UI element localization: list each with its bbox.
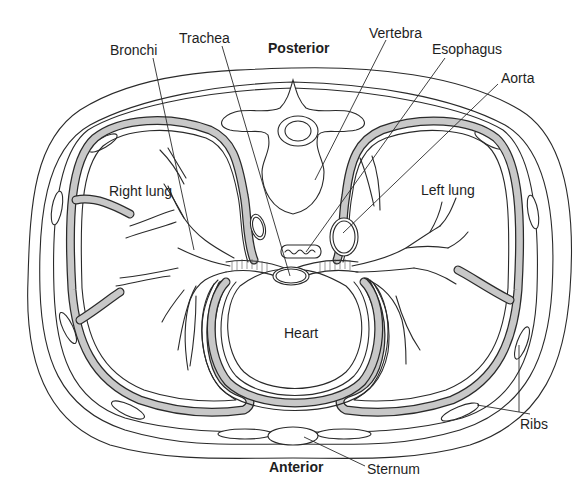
right-pleural-cavity-fill (70, 121, 254, 413)
rib (218, 429, 272, 439)
label-trachea: Trachea (179, 31, 230, 45)
label-ribs: Ribs (520, 417, 548, 431)
right-bronchial-tree (116, 148, 234, 370)
rib (317, 429, 371, 439)
label-posterior: Posterior (268, 41, 329, 55)
left-pleural-cavity-fill (337, 121, 520, 412)
label-aorta: Aorta (501, 71, 534, 85)
label-right-lung: Right lung (109, 184, 172, 198)
sternum (268, 427, 318, 445)
label-anterior: Anterior (269, 460, 323, 474)
label-left-lung: Left lung (421, 183, 475, 197)
label-bronchi: Bronchi (110, 43, 157, 57)
rib (49, 190, 65, 225)
rib (525, 194, 541, 229)
left-lung-outline (343, 130, 509, 401)
trachea (273, 267, 309, 285)
diagram-artwork (0, 0, 585, 494)
right-lung-outline (81, 130, 248, 401)
thorax-cross-section-diagram: Bronchi Trachea Posterior Vertebra Esoph… (0, 0, 585, 494)
label-esophagus: Esophagus (432, 42, 502, 56)
aorta (330, 218, 358, 256)
leader-bronchi (153, 58, 194, 250)
leader-aorta (343, 84, 498, 233)
label-sternum: Sternum (367, 462, 420, 476)
label-heart: Heart (284, 326, 318, 340)
label-vertebra: Vertebra (369, 26, 422, 40)
